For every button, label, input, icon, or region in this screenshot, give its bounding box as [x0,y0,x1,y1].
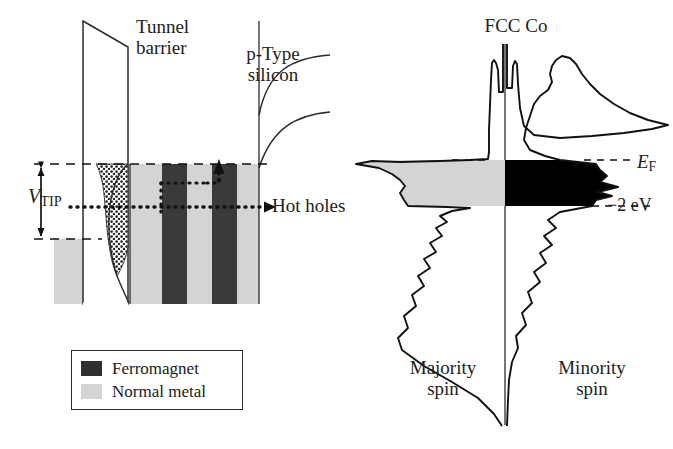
legend-item-ferromagnet: Ferromagnet [81,357,234,380]
legend-box: Ferromagnet Normal metal [71,350,243,410]
hot-holes-label: Hot holes [272,196,345,217]
dos-majority-fill [356,160,505,206]
vtip-arrow-head-up [38,168,45,176]
fermi-energy-label: EF [637,152,656,175]
stack-layer-ferromagnet-2 [212,164,237,304]
stack-layer-normal-metal-3 [237,164,259,304]
minus-two-ev-label: −2 eV [607,196,652,215]
legend-label-ferromagnet: Ferromagnet [112,360,199,377]
stack-layer-normal-metal-2 [187,164,212,304]
legend-label-normal-metal: Normal metal [112,383,206,400]
silicon-valence-band-edge [259,112,330,168]
stack-layer-ferromagnet-1 [162,164,187,304]
ferromagnet-swatch [81,361,102,376]
tunnel-barrier-label: Tunnel barrier [136,17,189,58]
fcc-co-title: FCC Co [485,16,548,37]
vtip-arrow-head-down [38,228,45,236]
p-type-silicon-label: p-Type silicon [246,44,300,85]
stack-layer-normal-metal-1 [130,164,162,304]
majority-spin-label: Majority spin [410,358,477,399]
normal-metal-swatch [81,384,102,399]
legend-item-normal-metal: Normal metal [81,380,234,403]
v-tip-label: VTIP [28,186,62,210]
minority-spin-label: Minority spin [558,358,626,399]
